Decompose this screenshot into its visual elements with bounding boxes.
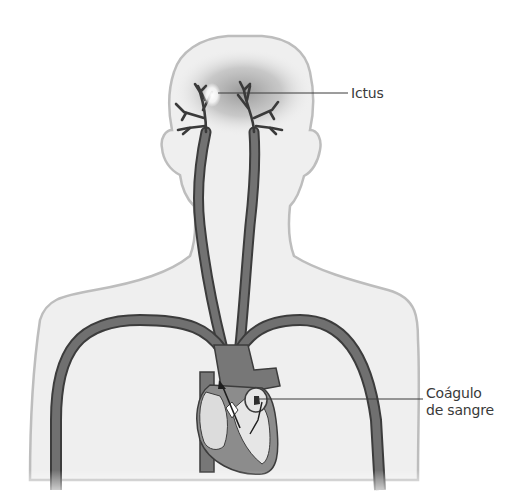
stroke-label: Ictus	[351, 85, 383, 102]
blood-clot-label-line1: Coágulo	[426, 385, 494, 402]
stroke-site	[203, 83, 221, 107]
diagram-stage: Ictus Coágulo de sangre	[0, 0, 527, 501]
blood-clot-label-line2: de sangre	[426, 402, 494, 419]
anatomy-illustration	[0, 0, 527, 501]
blood-clot-label: Coágulo de sangre	[426, 385, 494, 419]
